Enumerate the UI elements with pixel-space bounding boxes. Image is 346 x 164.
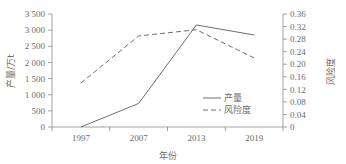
y-axis-right-ticks: 00.040.080.120.160.200.240.280.320.36 — [283, 9, 306, 132]
chart-legend: 产量风险度 — [203, 92, 251, 115]
y-axis-right-tick-label: 0.28 — [290, 34, 306, 44]
y-axis-right-tick-label: 0.32 — [290, 22, 306, 32]
y-axis-left-tick-label: 3 500 — [25, 9, 46, 19]
y-axis-right-tick-label: 0 — [290, 122, 295, 132]
y-axis-left-tick-label: 3 000 — [25, 25, 46, 35]
y-axis-right-tick-label: 0.04 — [290, 110, 306, 120]
y-axis-left-tick-label: 2 500 — [25, 41, 46, 51]
y-axis-left-title: 产量/万t — [5, 54, 16, 88]
y-axis-right-tick-label: 0.08 — [290, 97, 306, 107]
y-axis-left-tick-label: 1 000 — [25, 90, 46, 100]
y-axis-left-tick-label: 2 000 — [25, 58, 46, 68]
x-axis-tick-label: 2007 — [130, 133, 149, 143]
series-line-risk — [81, 30, 254, 83]
chart-container: 05001 0001 5002 0002 5003 0003 500 00.04… — [0, 0, 346, 164]
y-axis-right-tick-label: 0.12 — [290, 85, 306, 95]
x-axis-tick-label: 2019 — [245, 133, 264, 143]
y-axis-left-ticks: 05001 0001 5002 0002 5003 0003 500 — [25, 9, 52, 132]
x-axis-tick-label: 1997 — [72, 133, 91, 143]
y-axis-left-tick-label: 500 — [32, 106, 46, 116]
dual-axis-line-chart: 05001 0001 5002 0002 5003 0003 500 00.04… — [0, 0, 346, 164]
y-axis-right-tick-label: 0.20 — [290, 59, 306, 69]
y-axis-right-tick-label: 0.16 — [290, 72, 306, 82]
y-axis-right-tick-label: 0.24 — [290, 47, 306, 57]
y-axis-left-tick-label: 1 500 — [25, 74, 46, 84]
legend-label: 风险度 — [224, 104, 251, 115]
y-axis-right-title: 风险度 — [325, 58, 336, 85]
y-axis-right-tick-label: 0.36 — [290, 9, 306, 19]
legend-label: 产量 — [224, 92, 242, 103]
x-axis-tick-label: 2013 — [187, 133, 206, 143]
x-axis-title: 年份 — [159, 150, 177, 161]
y-axis-left-tick-label: 0 — [41, 122, 46, 132]
x-axis-ticks: 1997200720132019 — [52, 127, 283, 143]
